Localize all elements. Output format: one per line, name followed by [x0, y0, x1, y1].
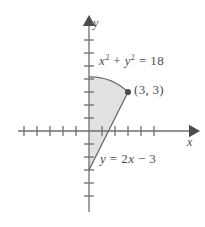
line-eq-equals: =: [110, 151, 118, 166]
circle-eq-equals: =: [139, 53, 147, 68]
circle-equation-label: x2 + y2 = 18: [99, 54, 164, 67]
circle-eq-value: 18: [150, 53, 164, 68]
circle-eq-x-exponent: 2: [105, 53, 109, 62]
point-label: (3, 3): [134, 83, 164, 96]
line-eq-y: y: [100, 151, 106, 166]
coordinate-plot: [0, 0, 205, 227]
math-figure: x2 + y2 = 18 (3, 3) y = 2x − 3 x y: [0, 0, 205, 227]
line-eq-minus: −: [138, 151, 146, 166]
y-axis-label: y: [93, 17, 98, 29]
line-eq-variable: x: [128, 151, 134, 166]
line-equation-label: y = 2x − 3: [100, 152, 156, 165]
circle-eq-plus: +: [113, 53, 121, 68]
intersection-point-marker: [125, 89, 131, 95]
line-eq-intercept: 3: [149, 151, 156, 166]
circle-eq-y-exponent: 2: [131, 53, 135, 62]
x-axis-label: x: [187, 136, 192, 148]
